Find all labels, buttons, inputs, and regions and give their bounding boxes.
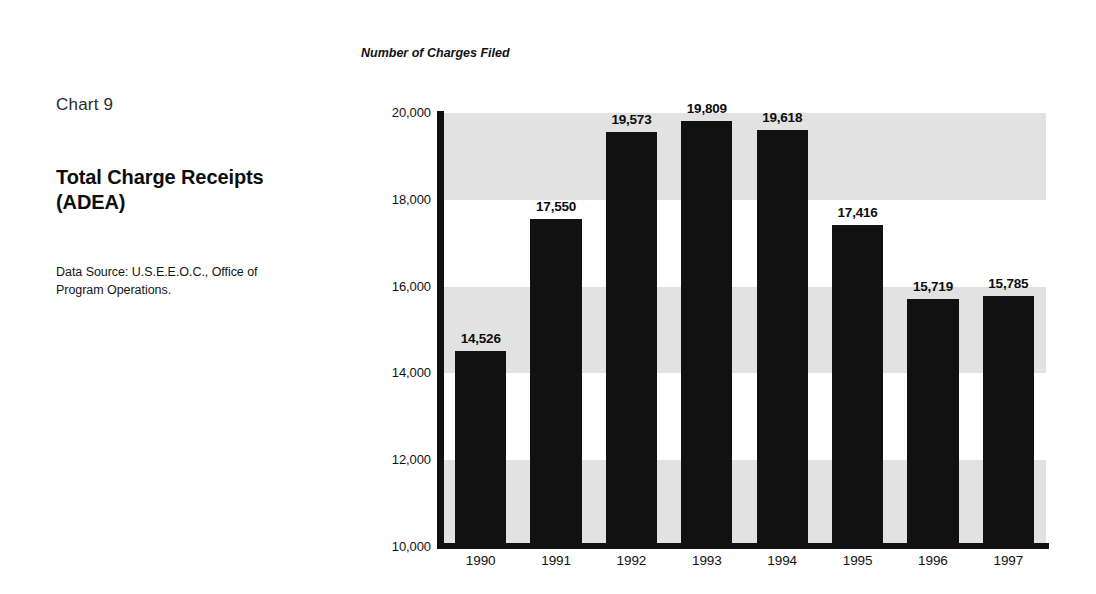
bar-slot: 17,550: [518, 113, 593, 547]
bar-value-label: 19,573: [594, 112, 669, 127]
x-tick-label: 1995: [820, 553, 895, 568]
bar-chart: Number of Charges Filed 14,52617,55019,5…: [0, 0, 1096, 594]
x-tick-label: 1996: [895, 553, 970, 568]
x-tick-label: 1993: [669, 553, 744, 568]
x-tick-label: 1991: [518, 553, 593, 568]
y-tick-label: 12,000: [359, 452, 431, 467]
bar[interactable]: [455, 351, 506, 547]
bar-slot: 17,416: [820, 113, 895, 547]
bar-slot: 15,719: [895, 113, 970, 547]
bar-value-label: 15,785: [971, 276, 1046, 291]
y-tick-label: 14,000: [359, 365, 431, 380]
y-axis-tick-labels: 10,00012,00014,00016,00018,00020,000: [355, 0, 431, 594]
y-tick-label: 20,000: [359, 105, 431, 120]
bars-layer: 14,52617,55019,57319,80919,61817,41615,7…: [443, 113, 1046, 547]
bar-value-label: 17,550: [518, 199, 593, 214]
bar[interactable]: [681, 121, 732, 547]
bar[interactable]: [907, 299, 958, 547]
y-tick-label: 10,000: [359, 539, 431, 554]
x-tick-label: 1997: [971, 553, 1046, 568]
bar-value-label: 19,618: [745, 110, 820, 125]
y-tick-label: 18,000: [359, 192, 431, 207]
bar[interactable]: [832, 225, 883, 547]
bar-slot: 19,809: [669, 113, 744, 547]
y-axis-line: [437, 111, 444, 549]
x-axis-line: [437, 543, 1049, 549]
plot-area: 14,52617,55019,57319,80919,61817,41615,7…: [443, 113, 1046, 547]
bar[interactable]: [606, 132, 657, 547]
bar-value-label: 14,526: [443, 331, 518, 346]
bar-slot: 19,573: [594, 113, 669, 547]
bar-value-label: 15,719: [895, 279, 970, 294]
bar-slot: 14,526: [443, 113, 518, 547]
bar-slot: 19,618: [745, 113, 820, 547]
y-tick-label: 16,000: [359, 279, 431, 294]
x-tick-label: 1992: [594, 553, 669, 568]
bar-value-label: 19,809: [669, 101, 744, 116]
bar[interactable]: [757, 130, 808, 547]
x-tick-label: 1994: [745, 553, 820, 568]
x-axis-tick-labels: 19901991199219931994199519961997: [443, 553, 1046, 575]
x-tick-label: 1990: [443, 553, 518, 568]
bar-value-label: 17,416: [820, 205, 895, 220]
bar-slot: 15,785: [971, 113, 1046, 547]
bar[interactable]: [983, 296, 1034, 547]
bar[interactable]: [530, 219, 581, 547]
